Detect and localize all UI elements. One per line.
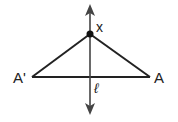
label-a-prime: A' xyxy=(13,69,26,86)
diagram-canvas: x A' A ℓ xyxy=(0,0,178,122)
segment-x-a xyxy=(90,34,150,77)
label-line-l: ℓ xyxy=(93,80,99,96)
label-a: A xyxy=(154,69,164,86)
segment-a-prime-x xyxy=(32,34,90,77)
point-x-dot xyxy=(87,31,94,38)
label-x: x xyxy=(96,19,103,35)
